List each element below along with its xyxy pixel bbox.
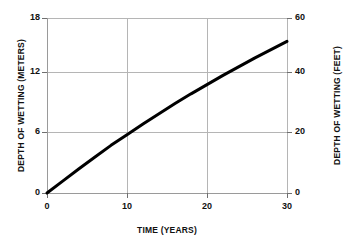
- data-series-line: [47, 41, 287, 193]
- y-axis-title-right: DEPTH OF WETTING (FEET): [330, 18, 344, 193]
